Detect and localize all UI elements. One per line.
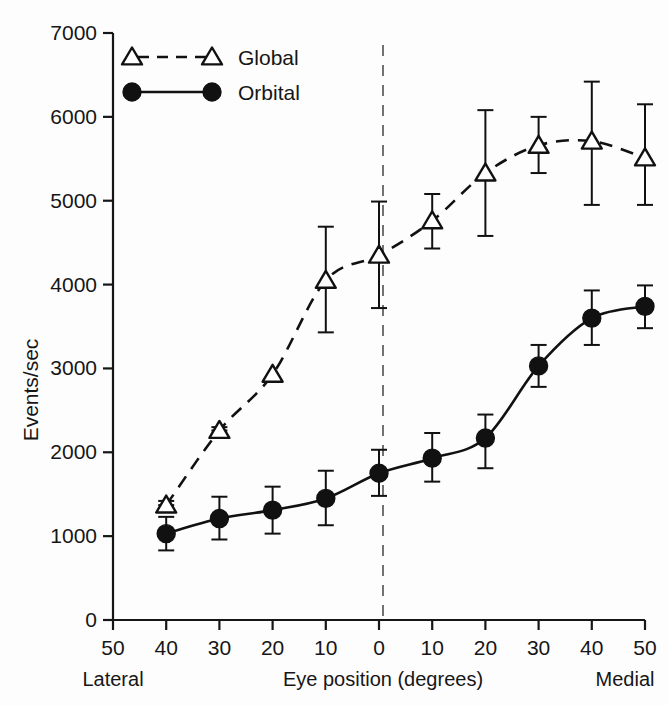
y-axis-title: Events/sec [19,339,42,442]
y-tick-label: 7000 [50,21,97,44]
y-tick-label: 2000 [50,440,97,463]
y-tick-label: 5000 [50,189,97,212]
series-line [166,306,645,533]
x-axis-title: Eye position (degrees) [283,668,483,690]
data-point-marker-filled-circle [476,429,494,447]
data-point-marker-open-triangle [635,148,655,165]
x-tick-label: 10 [314,636,337,659]
data-point-marker-filled-circle [157,525,175,543]
data-point-marker-filled-circle [423,449,441,467]
x-tick-label: 10 [421,636,444,659]
x-tick-label: 50 [633,636,656,659]
x-tick-label: 30 [527,636,550,659]
data-point-marker-open-triangle [209,421,229,438]
data-point-marker-filled-circle [264,501,282,519]
y-tick-label: 6000 [50,105,97,128]
data-point-marker-filled-circle [583,309,601,327]
x-axis-left-endpoint-label: Lateral [82,668,143,690]
y-axis-tick-group: 01000200030004000500060007000 [50,21,113,631]
x-tick-label: 20 [474,636,497,659]
y-tick-label: 3000 [50,356,97,379]
data-point-marker-filled-circle [123,83,141,101]
x-tick-label: 0 [373,636,385,659]
series-orbital [157,285,654,550]
data-point-marker-open-triangle [156,496,176,513]
series-line [166,140,645,505]
figure-container: 01000200030004000500060007000 5040302010… [0,0,669,705]
x-tick-label: 50 [101,636,124,659]
chart-legend: GlobalOrbital [122,46,300,104]
y-tick-label: 4000 [50,273,97,296]
y-tick-label: 0 [85,608,97,631]
x-axis-right-endpoint-label: Medial [596,668,655,690]
data-point-marker-open-triangle [475,164,495,181]
x-tick-label: 30 [208,636,231,659]
y-tick-label: 1000 [50,524,97,547]
data-point-marker-open-triangle [369,246,389,263]
x-axis-tick-group: 504030201001020304050 [101,620,656,659]
data-point-marker-filled-circle [203,83,221,101]
data-point-marker-filled-circle [317,489,335,507]
legend-label: Global [238,46,299,69]
data-point-marker-filled-circle [530,357,548,375]
x-tick-label: 20 [261,636,284,659]
legend-label: Orbital [238,81,300,104]
data-point-marker-filled-circle [370,464,388,482]
data-point-marker-open-triangle [422,211,442,228]
data-point-marker-filled-circle [636,297,654,315]
series-global [156,82,655,513]
x-tick-label: 40 [155,636,178,659]
x-tick-label: 40 [580,636,603,659]
data-point-marker-filled-circle [210,510,228,528]
chart-canvas: 01000200030004000500060007000 5040302010… [0,0,669,705]
data-point-marker-open-triangle [263,365,283,382]
